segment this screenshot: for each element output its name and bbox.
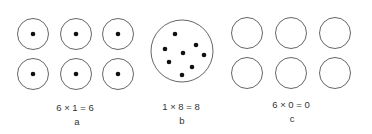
dot: [202, 53, 207, 58]
panel-label-b: b: [179, 115, 184, 126]
dot: [173, 32, 178, 37]
group-circle-c: [276, 58, 307, 89]
equation-a: 6 × 1 = 6: [56, 102, 94, 113]
dot: [194, 43, 199, 48]
group-circle-c: [232, 58, 263, 89]
dot: [163, 47, 168, 52]
group-circle-c: [320, 18, 351, 49]
dot: [116, 72, 121, 77]
dot: [180, 73, 185, 78]
dot: [167, 60, 172, 65]
dot: [74, 32, 79, 37]
group-circle-c: [320, 58, 351, 89]
dot: [190, 65, 195, 70]
equation-c: 6 × 0 = 0: [272, 99, 310, 110]
dot: [116, 32, 121, 37]
dot: [31, 72, 36, 77]
dot: [31, 32, 36, 37]
dot: [181, 51, 186, 56]
panel-label-c: c: [290, 113, 295, 124]
multiplication-groups-diagram: [0, 0, 372, 134]
dot: [74, 72, 79, 77]
group-circle-c: [276, 18, 307, 49]
panel-label-a: a: [74, 116, 79, 127]
equation-b: 1 × 8 = 8: [162, 101, 200, 112]
group-circle-c: [232, 18, 263, 49]
